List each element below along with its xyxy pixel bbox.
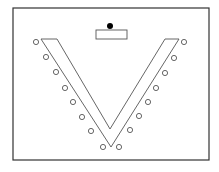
presenter-dot-icon [107,23,113,29]
seat-left-6-icon [79,114,84,119]
seat-right-2-icon [171,55,176,60]
seat-left-4-icon [62,85,67,90]
v-shaped-table [41,39,179,147]
seat-right-5-icon [145,99,150,104]
seat-right-3-icon [162,70,167,75]
seat-right-8-icon [116,144,121,149]
seat-right-1-icon [181,39,186,44]
seat-left-2-icon [43,54,48,59]
seat-left-7-icon [88,128,93,133]
seat-left-5-icon [70,99,75,104]
v-shape-seating-diagram [0,0,219,172]
seats-group [33,39,186,149]
seat-left-1-icon [33,39,38,44]
seat-right-4-icon [153,85,158,90]
seat-left-8-icon [100,144,105,149]
seat-right-7-icon [127,127,132,132]
room-frame [13,8,209,160]
seat-right-6-icon [136,113,141,118]
lectern-table [96,30,127,39]
seat-left-3-icon [53,69,58,74]
